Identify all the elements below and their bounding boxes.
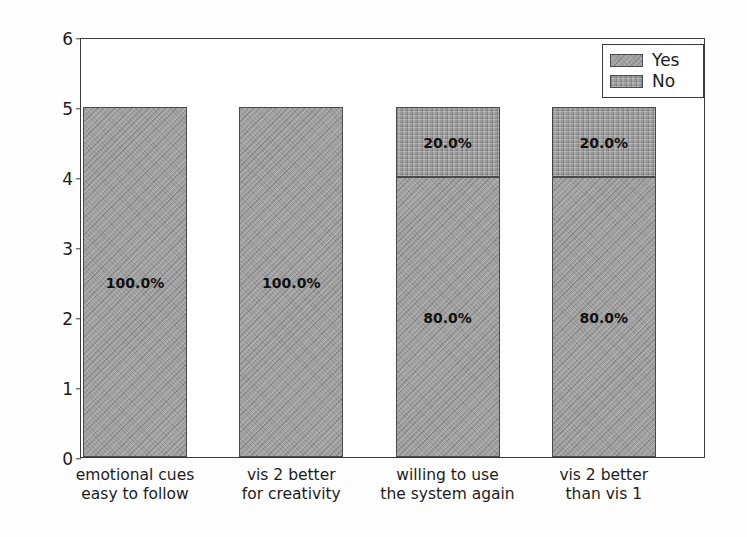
x-tick-label-line: easy to follow xyxy=(76,485,195,504)
x-tick-label-line: than vis 1 xyxy=(559,485,648,504)
y-tick-mark xyxy=(76,38,81,39)
bar-segment-yes[interactable]: 100.0% xyxy=(239,107,343,457)
legend: Yes No xyxy=(602,44,704,98)
plot-area: No of participants 0123456 100.0%100.0%8… xyxy=(80,38,705,458)
x-tick-label: vis 2 betterthan vis 1 xyxy=(559,466,648,505)
bar-value-label: 20.0% xyxy=(553,135,655,151)
legend-label-no: No xyxy=(652,73,675,90)
x-tick-label: willing to usethe system again xyxy=(380,466,514,505)
x-tick-label: emotional cueseasy to follow xyxy=(76,466,195,505)
x-tick-label-line: vis 2 better xyxy=(242,466,341,485)
bar-segment-yes[interactable]: 80.0% xyxy=(552,177,656,457)
bar-segment-yes[interactable]: 100.0% xyxy=(83,107,187,457)
x-tick-label-line: vis 2 better xyxy=(559,466,648,485)
y-tick-mark xyxy=(76,248,81,249)
bar-value-label: 100.0% xyxy=(240,275,342,291)
y-tick-label: 0 xyxy=(62,449,73,469)
y-tick-label: 2 xyxy=(62,309,73,329)
x-tick-label: vis 2 betterfor creativity xyxy=(242,466,341,505)
y-tick-label: 6 xyxy=(62,29,73,49)
legend-item-no: No xyxy=(610,71,696,92)
y-tick-mark xyxy=(76,108,81,109)
y-tick-label: 1 xyxy=(62,379,73,399)
legend-swatch-yes-icon xyxy=(610,54,643,67)
bar-value-label: 20.0% xyxy=(397,135,499,151)
legend-label-yes: Yes xyxy=(652,52,679,69)
bar-value-label: 100.0% xyxy=(84,275,186,291)
legend-item-yes: Yes xyxy=(610,50,696,71)
y-tick-label: 3 xyxy=(62,239,73,259)
x-tick-label-line: the system again xyxy=(380,485,514,504)
bar-segment-yes[interactable]: 80.0% xyxy=(396,177,500,457)
bar-value-label: 80.0% xyxy=(397,310,499,326)
bar-group[interactable]: 80.0%20.0% xyxy=(396,37,500,457)
y-tick-mark xyxy=(76,388,81,389)
x-tick-label-line: willing to use xyxy=(380,466,514,485)
x-tick-label-line: emotional cues xyxy=(76,466,195,485)
bar-segment-no[interactable]: 20.0% xyxy=(396,107,500,177)
bar-value-label: 80.0% xyxy=(553,310,655,326)
bar-group[interactable]: 100.0% xyxy=(83,37,187,457)
x-tick-label-line: for creativity xyxy=(242,485,341,504)
y-tick-label: 5 xyxy=(62,99,73,119)
legend-swatch-no-icon xyxy=(610,75,643,88)
bar-chart: No of participants 0123456 100.0%100.0%8… xyxy=(0,0,747,537)
y-tick-mark xyxy=(76,458,81,459)
y-tick-mark xyxy=(76,318,81,319)
bar-group[interactable]: 80.0%20.0% xyxy=(552,37,656,457)
y-tick-mark xyxy=(76,178,81,179)
bar-group[interactable]: 100.0% xyxy=(239,37,343,457)
y-tick-label: 4 xyxy=(62,169,73,189)
bar-segment-no[interactable]: 20.0% xyxy=(552,107,656,177)
